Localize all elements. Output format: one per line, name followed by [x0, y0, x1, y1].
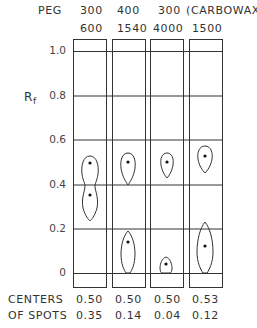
center-lane1-lower-value: 0.35 — [76, 309, 103, 322]
center-lane4-b — [203, 244, 206, 247]
center-lane1-a — [88, 161, 91, 164]
of-spots-label: OF SPOTS — [8, 309, 67, 322]
spot-lane3-upper — [161, 153, 174, 178]
gridlines — [73, 52, 223, 274]
center-lane3-a — [165, 160, 168, 163]
center-lane3-lower-value: 0.04 — [154, 309, 181, 322]
center-lane3-upper-value: 0.50 — [154, 293, 181, 306]
tlc-plate-diagram — [0, 0, 257, 328]
center-lane1-b — [88, 193, 91, 196]
center-lane2-a — [126, 160, 129, 163]
center-lane1-upper-value: 0.50 — [76, 293, 103, 306]
lane-2 — [113, 40, 146, 288]
center-lane2-upper-value: 0.50 — [115, 293, 142, 306]
spot-lane4-upper — [198, 146, 212, 173]
center-lane2-b — [126, 240, 129, 243]
center-lane2-lower-value: 0.14 — [115, 309, 142, 322]
centers-label: CENTERS — [8, 293, 63, 306]
spot-lane2-upper — [121, 153, 135, 185]
center-lane4-a — [203, 154, 206, 157]
spot-lane2-lower — [121, 231, 135, 273]
lane-4 — [190, 40, 223, 288]
spot-lane1 — [82, 156, 98, 221]
center-lane4-lower-value: 0.12 — [192, 309, 219, 322]
center-lane4-upper-value: 0.53 — [192, 293, 219, 306]
center-lane3-b — [164, 262, 167, 265]
